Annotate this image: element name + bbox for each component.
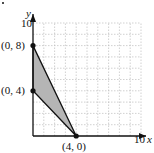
- vertex-point: [30, 88, 35, 93]
- vertex-point: [74, 133, 79, 138]
- x-axis-label: x: [146, 133, 152, 145]
- bullet-dot: [2, 2, 4, 4]
- point-label-0-4: (0, 4): [1, 84, 25, 97]
- x-tick-label: 10: [134, 133, 146, 145]
- point-label-4-0: (4, 0): [62, 140, 86, 153]
- vertex-point: [30, 43, 35, 48]
- point-label-0-8: (0, 8): [1, 39, 25, 52]
- feasible-region-graph: y 10 10 x (0, 8) (0, 4) (4, 0): [0, 0, 154, 153]
- y-tick-label: 10: [21, 17, 33, 29]
